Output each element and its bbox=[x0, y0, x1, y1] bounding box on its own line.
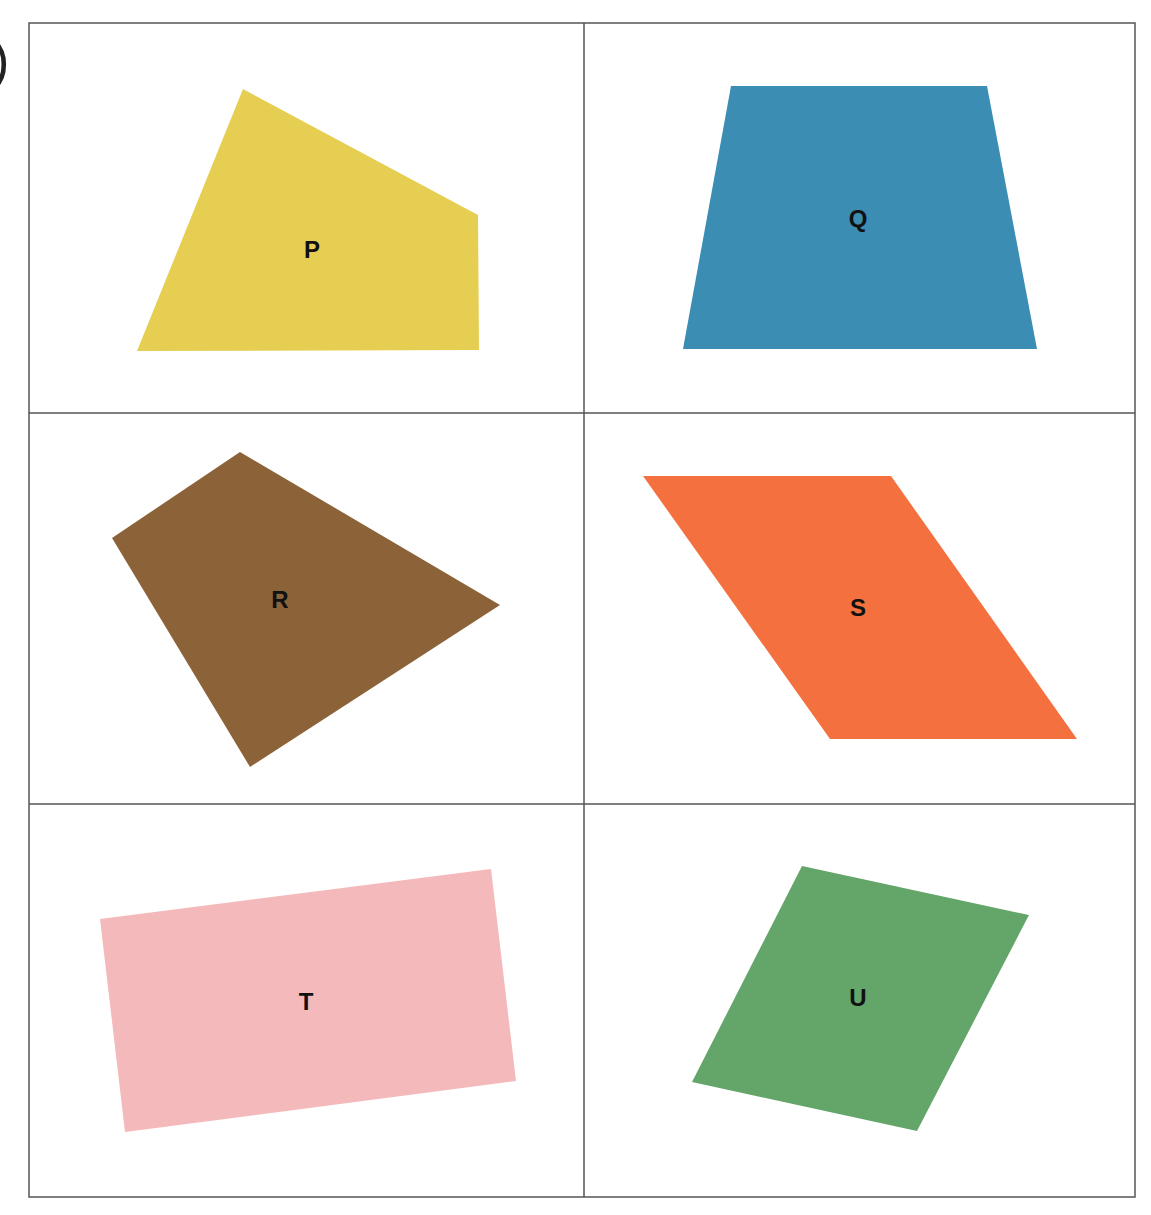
shape-label-r: R bbox=[271, 586, 288, 613]
shapes-grid: P Q R S T U bbox=[0, 0, 1151, 1215]
shape-label-p: P bbox=[304, 236, 320, 263]
shape-label-s: S bbox=[850, 594, 866, 621]
quadrilateral-p bbox=[137, 89, 479, 351]
shape-r: R bbox=[112, 452, 500, 767]
shape-t: T bbox=[100, 869, 516, 1132]
shape-q: Q bbox=[683, 86, 1037, 349]
shape-s: S bbox=[643, 476, 1077, 739]
shape-label-u: U bbox=[849, 984, 866, 1011]
shape-label-t: T bbox=[299, 988, 314, 1015]
shape-u: U bbox=[692, 866, 1029, 1131]
shape-p: P bbox=[137, 89, 479, 351]
quadrilateral-r bbox=[112, 452, 500, 767]
shape-label-q: Q bbox=[849, 205, 868, 232]
